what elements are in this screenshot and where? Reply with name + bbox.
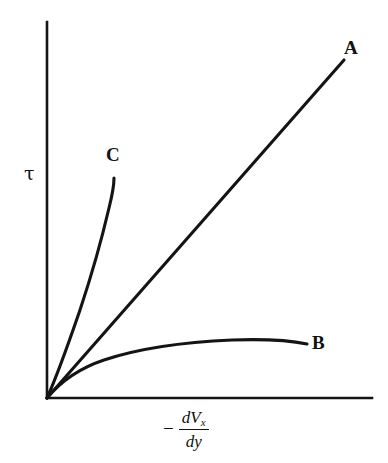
numerator-subscript: x bbox=[201, 416, 206, 428]
curve-label-c: C bbox=[106, 145, 120, 164]
rheology-chart: A B C τ − dVx dy bbox=[0, 0, 388, 463]
curve-label-a: A bbox=[344, 38, 358, 57]
curve-c-dilatant bbox=[47, 178, 114, 398]
data-curves bbox=[47, 60, 344, 398]
minus-sign: − bbox=[163, 419, 174, 440]
y-axis-label-tau: τ bbox=[24, 164, 35, 183]
x-axis-label: − dVx dy bbox=[163, 408, 209, 451]
fraction-numerator: dVx bbox=[180, 408, 208, 427]
curve-b-pseudoplastic bbox=[47, 340, 307, 398]
curve-a-newtonian bbox=[47, 60, 344, 398]
derivative-fraction: dVx dy bbox=[179, 408, 209, 451]
chart-canvas bbox=[0, 0, 388, 463]
fraction-denominator: dy bbox=[184, 432, 204, 451]
curve-label-b: B bbox=[312, 333, 325, 352]
fraction-bar bbox=[179, 429, 209, 431]
numerator-main: dV bbox=[182, 408, 201, 427]
